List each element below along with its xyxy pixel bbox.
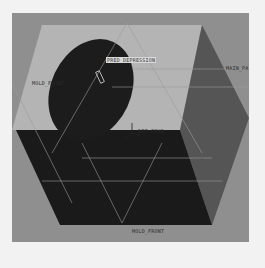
datum-left-label[interactable]: MOLD_FRONT	[32, 80, 64, 86]
datum-bottom-label[interactable]: MOLD_FRONT	[132, 228, 164, 234]
datum-right-label[interactable]: MAIN_PA	[226, 65, 248, 71]
csys-label[interactable]: DEF_CSYS	[138, 128, 164, 134]
feature-tag-label[interactable]: PRED_DEPRESSION	[106, 57, 156, 63]
front-face	[16, 130, 212, 225]
3d-model-viewport[interactable]: PRED_DEPRESSION MOLD_FRONT MAIN_PA DEF_C…	[12, 13, 249, 242]
model-geometry	[12, 13, 249, 242]
